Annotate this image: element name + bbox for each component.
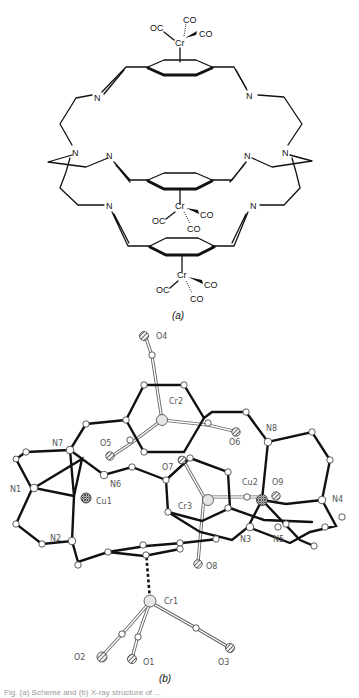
label-o7: O7	[162, 463, 173, 472]
label-n: N	[244, 151, 251, 161]
label-oc: OC	[150, 23, 164, 33]
panel-a-scheme: OC CO CO Cr N N N N N N N N	[48, 15, 312, 321]
atoms	[13, 332, 345, 664]
label-n1: N1	[10, 485, 21, 494]
label-n8: N8	[266, 424, 277, 433]
label-n: N	[246, 91, 253, 101]
caption-a: (a)	[172, 310, 184, 321]
label-cr: Cr	[177, 270, 187, 280]
label-o9: O9	[272, 478, 283, 487]
label-cr: Cr	[175, 38, 185, 48]
label-n5: N5	[273, 535, 284, 544]
label-cu1: Cu1	[96, 497, 112, 506]
figure-canvas: OC CO CO Cr N N N N N N N N	[0, 0, 359, 698]
label-o5: O5	[100, 439, 111, 448]
label-o2: O2	[74, 653, 85, 662]
label-n6: N6	[110, 480, 121, 489]
label-n2: N2	[50, 534, 61, 543]
label-n: N	[72, 148, 79, 158]
label-o3: O3	[218, 658, 229, 667]
label-cr2: Cr2	[169, 397, 183, 406]
label-oc: OC	[156, 285, 170, 295]
label-n: N	[106, 151, 113, 161]
label-cu2: Cu2	[242, 478, 258, 487]
figure-footnote: Fig. (a) Scheme and (b) X-ray structure …	[4, 688, 161, 697]
label-n: N	[282, 148, 289, 158]
panel-b-structure: O4 Cr2 O5 O6 N8 N7 O7 N1 N6 Cu1 Cu2 O9 N…	[10, 332, 345, 685]
label-co: CO	[190, 294, 204, 304]
label-co: CO	[200, 210, 214, 220]
label-cr1: Cr1	[164, 597, 178, 606]
label-n3: N3	[240, 535, 251, 544]
label-n7: N7	[52, 439, 63, 448]
label-o8: O8	[206, 562, 217, 571]
label-co: CO	[187, 224, 201, 234]
label-n: N	[250, 201, 257, 211]
label-co: CO	[183, 15, 197, 25]
label-co: CO	[204, 280, 218, 290]
label-oc: OC	[152, 216, 166, 226]
label-n: N	[94, 93, 101, 103]
label-o4: O4	[156, 332, 167, 341]
label-cr: Cr	[175, 201, 185, 211]
caption-b: (b)	[159, 673, 171, 684]
label-n: N	[106, 201, 113, 211]
label-n4: N4	[332, 495, 343, 504]
label-o1: O1	[143, 658, 154, 667]
label-o6: O6	[229, 438, 240, 447]
label-cr3: Cr3	[178, 502, 192, 511]
label-co: CO	[199, 29, 213, 39]
